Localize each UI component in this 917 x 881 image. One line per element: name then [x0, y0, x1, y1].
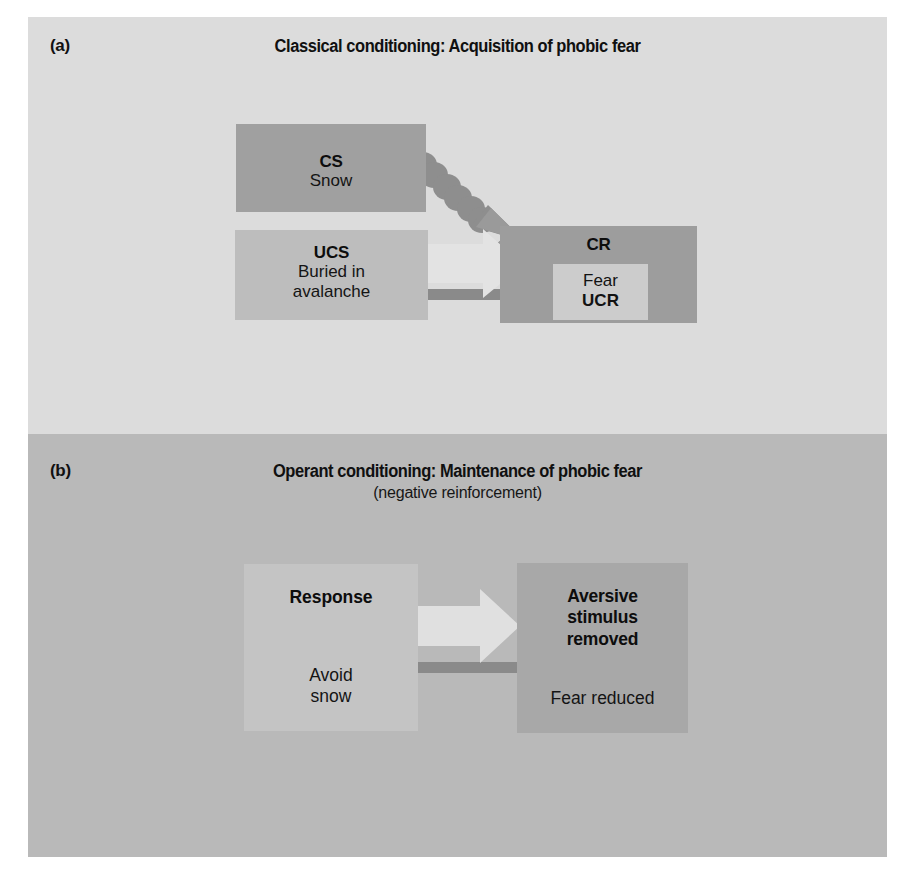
box-aversive-title-line-2: stimulus [517, 607, 688, 628]
panel-classical-conditioning: (a) Classical conditioning: Acquisition … [28, 17, 887, 434]
box-aversive-title-line-1: Aversive [517, 586, 688, 607]
box-ucr-inner-line-ucr: UCR [553, 291, 648, 311]
box-ucs-body: Buried in avalanche [235, 262, 428, 302]
box-ucs: UCS Buried in avalanche [235, 230, 428, 320]
box-ucs-title: UCS [235, 243, 428, 263]
box-aversive-title-line-3: removed [517, 629, 688, 650]
box-response: Response Avoid snow [244, 564, 418, 731]
box-cs-body: Snow [236, 171, 426, 191]
box-cs: CS Snow [236, 124, 426, 212]
panel-operant-conditioning: (b) Operant conditioning: Maintenance of… [28, 434, 887, 857]
box-cr-title: CR [500, 235, 697, 255]
box-response-title: Response [244, 587, 418, 608]
box-ucs-body-line-1: Buried in [235, 262, 428, 282]
box-aversive-body: Fear reduced [517, 688, 688, 709]
box-cs-title: CS [236, 152, 426, 172]
figure-container: (a) Classical conditioning: Acquisition … [28, 17, 887, 857]
box-ucr-inner-line-fear: Fear [553, 271, 648, 291]
panel-title-b: Operant conditioning: Maintenance of pho… [54, 461, 861, 482]
box-ucr-inner: Fear UCR [553, 264, 648, 320]
panel-title-a: Classical conditioning: Acquisition of p… [54, 36, 861, 57]
panel-subtitle-b: (negative reinforcement) [28, 484, 887, 502]
box-response-body-line-2: snow [244, 686, 418, 707]
cs-to-cr-dotted-arrow [28, 17, 887, 434]
ucs-to-cr-arrow [28, 17, 887, 434]
box-response-body: Avoid snow [244, 665, 418, 706]
box-response-body-line-1: Avoid [244, 665, 418, 686]
box-aversive-title: Aversive stimulus removed [517, 586, 688, 650]
box-ucs-body-line-2: avalanche [235, 282, 428, 302]
box-cr: CR Fear UCR [500, 226, 697, 323]
box-aversive-stimulus-removed: Aversive stimulus removed Fear reduced [517, 563, 688, 733]
